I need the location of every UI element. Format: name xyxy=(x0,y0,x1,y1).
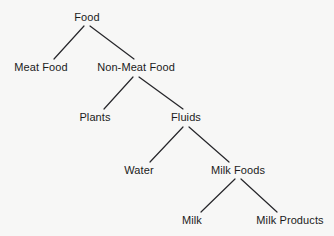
node-label-plants: Plants xyxy=(79,112,110,123)
node-label-water: Water xyxy=(124,165,153,176)
node-label-milk-foods: Milk Foods xyxy=(211,165,265,176)
tree-diagram-canvas: FoodMeat FoodNon-Meat FoodPlantsFluidsWa… xyxy=(0,0,334,236)
edge-food-non-meat-food xyxy=(90,26,134,59)
edge-fluids-water xyxy=(150,127,183,162)
node-label-meat-food: Meat Food xyxy=(14,62,67,73)
node-label-fluids: Fluids xyxy=(171,112,201,123)
edge-non-meat-food-plants xyxy=(104,77,133,109)
node-label-milk-products: Milk Products xyxy=(256,215,323,226)
edge-non-meat-food-fluids xyxy=(139,77,183,109)
node-label-non-meat-food: Non-Meat Food xyxy=(97,62,175,73)
node-label-milk: Milk xyxy=(182,215,202,226)
edge-layer xyxy=(0,0,334,236)
edge-food-meat-food xyxy=(54,26,84,59)
edge-milk-foods-milk-products xyxy=(241,179,277,212)
node-label-food: Food xyxy=(74,12,99,23)
edge-fluids-milk-foods xyxy=(189,127,229,162)
edge-milk-foods-milk xyxy=(201,179,235,212)
